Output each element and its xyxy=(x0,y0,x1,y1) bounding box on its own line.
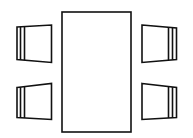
chair-bottom-left xyxy=(17,84,52,120)
chair-bottom-right xyxy=(142,84,177,120)
table xyxy=(62,12,131,132)
chair-top-left xyxy=(17,25,52,63)
chair-top-right xyxy=(142,25,177,63)
floor-plan xyxy=(0,0,193,138)
